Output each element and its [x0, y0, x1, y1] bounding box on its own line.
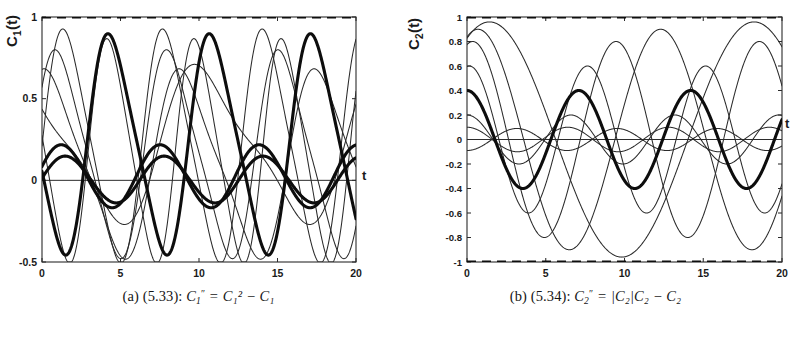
- caption-a-lhs-var: C: [186, 288, 196, 304]
- x-tick-label: 5: [543, 267, 549, 279]
- y-tick-label: -0.5: [19, 256, 37, 268]
- figure-container: 05101520-0.500.51C1(t)t (a) (5.33): C1″ …: [0, 0, 794, 349]
- x-tick-label: 15: [272, 267, 284, 279]
- x-tick-label: 10: [619, 267, 631, 279]
- caption-a-lhs-prime: ″: [201, 288, 205, 299]
- caption-b-lhs-var: C: [574, 288, 584, 304]
- x-tick-label: 5: [118, 267, 124, 279]
- y-axis-label: C1(t): [3, 15, 23, 47]
- y-tick-label: 0.4: [449, 85, 463, 96]
- x-tick-label: 10: [193, 267, 205, 279]
- y-tick-label: -0.6: [445, 208, 462, 219]
- x-tick-label: 20: [776, 267, 788, 279]
- y-tick-label: 0.5: [22, 92, 37, 104]
- panel-b: 05101520-1-0.8-0.6-0.4-0.200.20.40.60.81…: [397, 0, 794, 349]
- caption-a-equals: =: [209, 288, 219, 304]
- y-tick-label: 1: [31, 11, 37, 23]
- y-axis-label-tail: (t): [405, 18, 422, 33]
- panel-a: 05101520-0.500.51C1(t)t (a) (5.33): C1″ …: [0, 0, 397, 349]
- y-axis-label-var: C: [3, 36, 20, 47]
- caption-b: (b) (5.34): C2″ = |C₂|C₂ − C₂: [397, 288, 794, 306]
- y-tick-label: 0.2: [449, 110, 462, 121]
- y-tick-label: 0.6: [449, 61, 462, 72]
- y-axis-label-var: C: [405, 39, 422, 50]
- y-tick-label: -0.8: [445, 232, 462, 243]
- y-tick-label: -1: [453, 257, 462, 268]
- caption-b-eqnum: (5.34):: [531, 288, 571, 304]
- caption-a-eqnum: (5.33):: [143, 288, 183, 304]
- caption-a-rhs: C₁² − C₁: [223, 288, 275, 304]
- plot-b: 05101520-1-0.8-0.6-0.4-0.200.20.40.60.81…: [397, 0, 794, 285]
- x-tick-label: 0: [464, 267, 470, 279]
- chart-c1: 05101520-0.500.51C1(t)t: [0, 0, 397, 285]
- y-tick-label: 0: [31, 174, 37, 186]
- caption-b-equals: =: [597, 288, 607, 304]
- x-axis-label: t: [362, 168, 367, 183]
- y-tick-label: 1: [457, 12, 463, 23]
- x-tick-label: 0: [39, 267, 45, 279]
- y-tick-label: -0.2: [445, 159, 462, 170]
- caption-b-lhs-prime: ″: [589, 288, 593, 299]
- x-tick-label: 15: [697, 267, 709, 279]
- y-tick-label: 0: [457, 134, 462, 145]
- y-axis-label-tail: (t): [3, 15, 20, 30]
- caption-b-tag: (b): [510, 288, 527, 304]
- caption-a-tag: (a): [123, 288, 139, 304]
- x-axis-label: t: [785, 116, 790, 131]
- y-tick-label: 0.8: [449, 36, 463, 47]
- caption-a: (a) (5.33): C1″ = C₁² − C₁: [0, 288, 397, 306]
- x-tick-label: 20: [350, 267, 362, 279]
- chart-c2: 05101520-1-0.8-0.6-0.4-0.200.20.40.60.81…: [397, 0, 794, 285]
- caption-b-rhs: |C₂|C₂ − C₂: [611, 288, 681, 304]
- y-tick-label: -0.4: [445, 183, 462, 194]
- plot-a: 05101520-0.500.51C1(t)t: [0, 0, 397, 285]
- y-axis-label: C2(t): [405, 18, 425, 50]
